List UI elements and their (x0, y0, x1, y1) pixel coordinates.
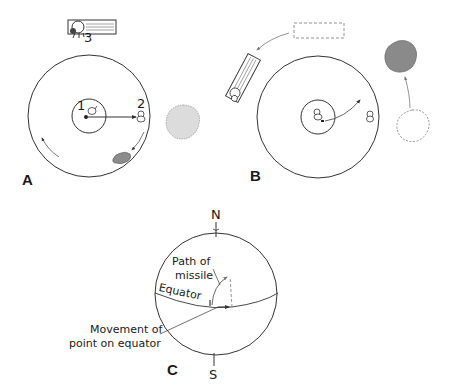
catcher-2 (137, 111, 145, 122)
movement-label-leader (160, 307, 218, 334)
curved-throw-path-b (325, 100, 360, 121)
rotation-arrow-a-left (42, 138, 59, 157)
dark-object-a (113, 152, 131, 163)
path-label-leader (213, 269, 220, 285)
north-label: N (211, 208, 221, 221)
path-label-line2: missile (175, 270, 213, 281)
blob-move-arrow-b (405, 77, 410, 108)
movement-label-line1: Movement of (90, 324, 162, 335)
missile-dashed-line (230, 277, 232, 307)
diagram-canvas (0, 0, 451, 391)
catcher-b (367, 111, 374, 122)
marker-2: 2 (137, 97, 145, 110)
dashed-blob-b (397, 110, 429, 142)
panel-label-b: B (250, 168, 261, 183)
dark-blob-b (385, 41, 417, 73)
marker-1: 1 (77, 99, 85, 112)
south-label: S (209, 368, 217, 381)
panel-label-a: A (22, 172, 33, 187)
light-blob-a (166, 105, 200, 139)
panel-a (28, 20, 200, 177)
rotation-arrow-a-right (132, 132, 144, 150)
dashed-platform-b (294, 23, 344, 38)
path-label-line1: Path of (172, 256, 210, 267)
rotated-platform-b (225, 54, 260, 104)
missile-path (212, 277, 227, 305)
turntable-a (28, 55, 150, 177)
panel-label-c: C (167, 362, 178, 377)
panel-b (225, 23, 429, 178)
thrower-b (314, 109, 324, 122)
marker-3: 3 (84, 31, 92, 44)
movement-label-line2: point on equator (69, 338, 161, 349)
platform-move-arrow-b (257, 33, 289, 50)
